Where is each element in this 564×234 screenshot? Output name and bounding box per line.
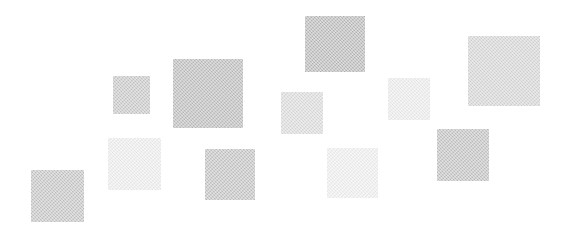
square-10 <box>437 129 489 181</box>
square-7 <box>305 16 365 72</box>
square-11 <box>468 36 540 106</box>
square-1 <box>31 170 84 222</box>
square-composition-canvas <box>0 0 564 234</box>
square-3 <box>113 76 150 114</box>
square-5 <box>205 149 255 200</box>
square-6 <box>281 92 323 134</box>
square-2 <box>108 138 161 190</box>
square-4 <box>173 59 243 128</box>
square-9 <box>388 78 430 120</box>
square-8 <box>327 148 378 198</box>
